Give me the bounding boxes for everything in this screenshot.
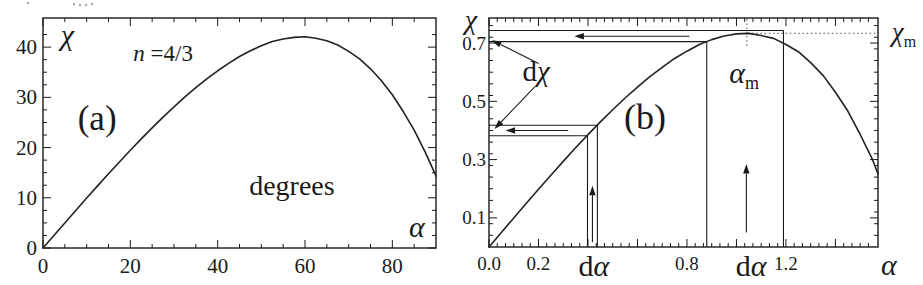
x-tick-label-a: 40	[207, 254, 228, 278]
annotation-text-a-3: degrees	[249, 170, 335, 201]
annotation-text-a-4: α	[409, 210, 426, 243]
x-tick-label-b: 0.0	[477, 253, 501, 274]
y-tick-label-b: 0.1	[462, 207, 486, 228]
x-tick-label-a: 60	[295, 254, 316, 278]
x-tick-label-a: 0	[38, 254, 49, 278]
annotation-text-a-0: χ	[58, 18, 75, 51]
y-tick-label-a: 10	[16, 186, 37, 210]
figure-rainbow-deflection-panels: 020406080010203040χn =4/3(a)degreesα0.00…	[0, 0, 923, 285]
annotation-text-a-2: (a)	[78, 99, 117, 138]
annotation-text-b-0: χ	[462, 4, 478, 35]
cropped-text-fragment	[27, 2, 93, 6]
annotation-text-b-2: (b)	[624, 97, 666, 137]
x-tick-label-b: 0.8	[675, 253, 699, 274]
y-tick-label-b: 0.5	[462, 91, 486, 112]
annotation-text-b-6: dα	[579, 249, 611, 282]
x-tick-label-b: 1.2	[774, 253, 798, 274]
annotation-text-a-1: n =4/3	[133, 41, 193, 66]
y-tick-label-a: 20	[16, 136, 37, 160]
annotation-text-b-3: αm	[729, 56, 759, 93]
chart-panel-b: 0.00.20.81.20.10.30.50.7χdχ(b)αmχmαdαdα	[462, 4, 917, 283]
annotation-text-b-5: α	[881, 248, 898, 281]
figure-svg: 020406080010203040χn =4/3(a)degreesα0.00…	[0, 0, 923, 285]
y-tick-label-a: 0	[27, 236, 38, 260]
y-tick-label-a: 40	[16, 35, 37, 59]
annotation-text-b-7: dα	[736, 249, 768, 282]
x-tick-label-a: 20	[120, 254, 141, 278]
y-tick-label-a: 30	[16, 85, 37, 109]
x-tick-label-b: 0.2	[527, 253, 551, 274]
deflection-curve-a	[43, 37, 436, 248]
y-tick-label-b: 0.7	[462, 33, 486, 54]
chart-panel-a: 020406080010203040χn =4/3(a)degreesα	[16, 18, 436, 278]
y-tick-label-b: 0.3	[462, 149, 486, 170]
x-tick-label-a: 80	[382, 254, 403, 278]
annotation-text-b-1: dχ	[522, 55, 551, 87]
annotation-text-b-4: χm	[889, 17, 917, 49]
